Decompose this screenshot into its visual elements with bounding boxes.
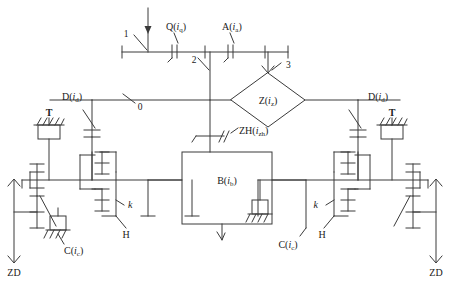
schematic-canvas: 1 Q(iq) A(ia) 2 3 0 Z(iz) ZH(izh) B(ib) … xyxy=(0,0,450,281)
label-1: 1 xyxy=(124,29,129,39)
label-ratio-left: k xyxy=(128,199,133,210)
engine-input-arrow xyxy=(145,8,152,52)
label-0: 0 xyxy=(138,102,143,112)
main-gearbox-box xyxy=(148,152,306,240)
final-drive-left-axle xyxy=(8,179,37,263)
top-shaft xyxy=(122,46,288,58)
leader-a xyxy=(230,33,234,43)
summing-clutch-symbol xyxy=(192,100,238,152)
label-carrier-right: H xyxy=(318,229,325,240)
gear-cluster-right xyxy=(258,152,428,228)
label-ratio-right: k xyxy=(314,199,319,210)
label-clutch-left: C(ic) xyxy=(64,245,83,258)
label-drive-right: D(id) xyxy=(368,91,388,104)
label-brake-right: T xyxy=(389,107,396,118)
label-pump: Q(iq) xyxy=(166,21,186,34)
gear-cluster-left xyxy=(22,152,192,228)
label-carrier-left: H xyxy=(122,229,129,240)
final-drive-right-axle xyxy=(413,179,442,263)
label-brake-left: T xyxy=(46,107,53,118)
brake-left-symbol xyxy=(34,118,64,180)
label-final-right: ZD xyxy=(429,267,442,278)
schematic-diagram: 1 Q(iq) A(ia) 2 3 0 Z(iz) ZH(izh) B(ib) … xyxy=(0,0,450,281)
brake-right-symbol xyxy=(377,118,407,180)
leader-1 xyxy=(134,35,147,50)
clutch-left-symbol xyxy=(40,196,70,244)
label-2: 2 xyxy=(192,55,197,65)
label-drive-left: D(id) xyxy=(62,91,82,104)
leader-2 xyxy=(198,58,209,70)
right-output-shaft xyxy=(406,164,428,228)
leader-0 xyxy=(123,94,135,103)
left-output-shaft xyxy=(22,164,44,228)
pump-clutch-symbol xyxy=(168,45,177,62)
label-summing: ZH(izh) xyxy=(239,125,268,138)
label-final-left: ZD xyxy=(7,267,20,278)
label-aux: A(ia) xyxy=(222,21,242,34)
label-3: 3 xyxy=(286,60,291,70)
label-clutch-right: C(ic) xyxy=(278,239,297,252)
aux-clutch-symbol xyxy=(224,45,233,62)
leader-q xyxy=(174,33,178,43)
